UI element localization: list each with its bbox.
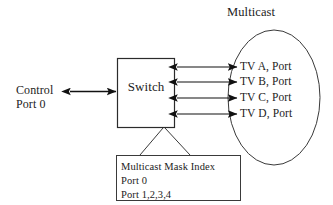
control-port-label: Control Port 0 — [16, 83, 53, 111]
control-port-line-1: Control — [16, 83, 53, 97]
multicast-group-title: Multicast — [227, 5, 275, 20]
mask-callout-line-3: Port 1,2,3,4 — [121, 188, 215, 202]
mask-callout-text: Multicast Mask Index Port 0 Port 1,2,3,4 — [121, 160, 215, 203]
callout-leader-right — [165, 128, 190, 155]
switch-label: Switch — [117, 79, 175, 94]
multicast-endpoint-label-d: TV D, Port — [240, 107, 292, 121]
multicast-endpoint-label-a: TV A, Port — [240, 60, 292, 74]
mask-callout-line-2: Port 0 — [121, 174, 215, 188]
multicast-endpoint-label-c: TV C, Port — [240, 91, 292, 105]
callout-leader-left — [140, 128, 163, 155]
diagram-canvas: Multicast Control Port 0 Switch TV A, Po… — [0, 0, 333, 205]
multicast-endpoint-label-b: TV B, Port — [240, 75, 292, 89]
mask-callout-line-1: Multicast Mask Index — [121, 160, 215, 174]
control-port-line-2: Port 0 — [16, 97, 53, 111]
